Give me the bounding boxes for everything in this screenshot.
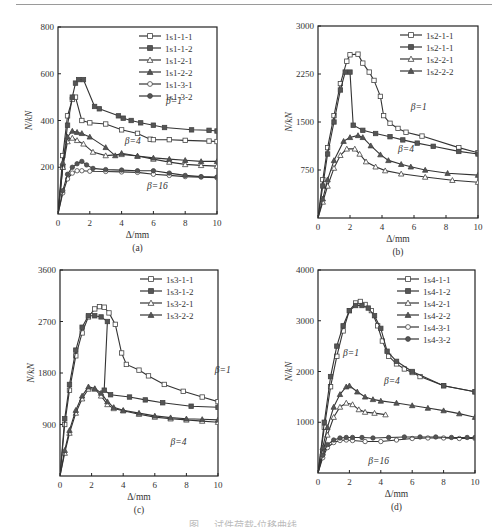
x-axis-label: Δ/mm (386, 234, 410, 244)
beta-annotation: β=1 (165, 96, 182, 106)
x-tick-label: 8 (183, 218, 188, 228)
legend-label: 1s3-1-2 (166, 287, 194, 297)
y-tick-label: 800 (41, 22, 55, 32)
x-tick-label: 10 (214, 480, 224, 490)
legend-label: 1s1-2-1 (165, 56, 193, 66)
legend-label: 1s2-1-1 (426, 31, 454, 41)
x-tick-label: 2 (348, 222, 353, 232)
chart-panel-d: 02468101000200030004000Δ/mmN/kN(d)1s4-1-… (249, 258, 498, 516)
legend-label: 1s2-1-1 (426, 43, 454, 53)
y-tick-label: 3600 (38, 265, 57, 275)
legend-label: 1s4-1-2 (423, 287, 451, 297)
legend-label: 1s1-3-1 (165, 80, 193, 90)
x-tick-label: 0 (58, 480, 63, 490)
x-axis-label: Δ/mm (385, 489, 409, 499)
legend-label: 1s4-2-1 (423, 299, 451, 309)
panel-label: (a) (132, 243, 143, 254)
y-axis-label: N/kN (24, 110, 34, 131)
y-tick-label: 2250 (296, 69, 315, 79)
y-tick-label: 1800 (38, 368, 57, 378)
x-tick-label: 8 (444, 222, 449, 232)
y-tick-label: 200 (41, 162, 55, 172)
chart-panel-b: 0246810750150022503000Δ/mmN/kN(b)1s2-1-1… (249, 0, 498, 258)
legend-label: 1s3-2-2 (166, 311, 194, 321)
y-axis-label: N/kN (284, 112, 294, 133)
beta-annotation: β=4 (383, 376, 400, 386)
x-tick-label: 0 (316, 477, 321, 487)
beta-annotation: β=1 (342, 348, 359, 358)
beta-annotation: β=16 (146, 181, 168, 191)
x-tick-label: 8 (441, 477, 446, 487)
y-tick-label: 3000 (296, 21, 315, 31)
y-tick-label: 2700 (38, 317, 57, 327)
x-tick-label: 6 (153, 480, 158, 490)
legend-label: 1s2-2-2 (426, 67, 454, 77)
legend-label: 1s1-2-2 (165, 68, 193, 78)
x-tick-label: 0 (316, 222, 321, 232)
beta-annotation: β=16 (367, 456, 389, 466)
figure-caption: 图 … 试件荷载-位移曲线 … (0, 517, 498, 527)
y-tick-label: 400 (41, 116, 55, 126)
y-axis-label: N/kN (26, 363, 36, 384)
x-axis-label: Δ/mm (126, 230, 150, 240)
y-tick-label: 3000 (296, 316, 315, 326)
beta-annotation: β=1 (214, 365, 231, 375)
plot-frame (318, 26, 478, 218)
x-tick-label: 0 (56, 218, 61, 228)
legend-label: 1s4-2-2 (423, 311, 451, 321)
beta-annotation: β=4 (124, 136, 141, 146)
y-tick-label: 2000 (296, 367, 315, 377)
legend-label: 1s1-1-1 (165, 32, 193, 42)
x-tick-label: 6 (412, 222, 417, 232)
legend-label: 1s3-2-1 (166, 299, 194, 309)
plot-frame (60, 270, 218, 476)
y-axis-label: N/kN (284, 361, 294, 382)
x-tick-label: 6 (151, 218, 156, 228)
x-tick-label: 4 (119, 218, 124, 228)
beta-annotation: β=4 (170, 437, 187, 447)
legend-label: 1s4-1-1 (423, 275, 451, 285)
x-tick-label: 8 (184, 480, 189, 490)
legend-label: 1s4-3-1 (423, 323, 451, 333)
x-tick-label: 6 (410, 477, 415, 487)
y-tick-label: 4000 (296, 265, 315, 275)
x-tick-label: 10 (471, 477, 481, 487)
x-tick-label: 2 (89, 480, 94, 490)
y-tick-label: 1000 (296, 417, 315, 427)
y-tick-label: 750 (301, 165, 315, 175)
panel-label: (c) (134, 505, 145, 516)
legend-label: 1s1-1-2 (165, 44, 193, 54)
x-tick-label: 4 (380, 222, 385, 232)
x-tick-label: 4 (121, 480, 126, 490)
beta-annotation: β=4 (397, 144, 414, 154)
x-axis-label: Δ/mm (127, 492, 151, 502)
chart-panel-c: 0246810900180027003600Δ/mmN/kN(c)1s3-1-1… (0, 258, 249, 516)
y-tick-label: 1500 (296, 117, 315, 127)
x-tick-label: 10 (474, 222, 484, 232)
panel-label: (b) (392, 247, 403, 258)
panel-label: (d) (391, 502, 402, 513)
y-tick-label: 900 (43, 420, 57, 430)
beta-annotation: β=1 (410, 102, 427, 112)
chart-panel-a: 0246810200400600800Δ/mmN/kN(a)1s1-1-11s1… (0, 0, 249, 258)
legend-label: 1s2-2-1 (426, 55, 454, 65)
x-tick-label: 4 (379, 477, 384, 487)
y-tick-label: 600 (41, 69, 55, 79)
x-tick-label: 2 (347, 477, 352, 487)
x-tick-label: 10 (213, 218, 223, 228)
x-tick-label: 2 (88, 218, 93, 228)
legend-label: 1s4-3-2 (423, 335, 451, 345)
legend-label: 1s3-1-1 (166, 275, 194, 285)
